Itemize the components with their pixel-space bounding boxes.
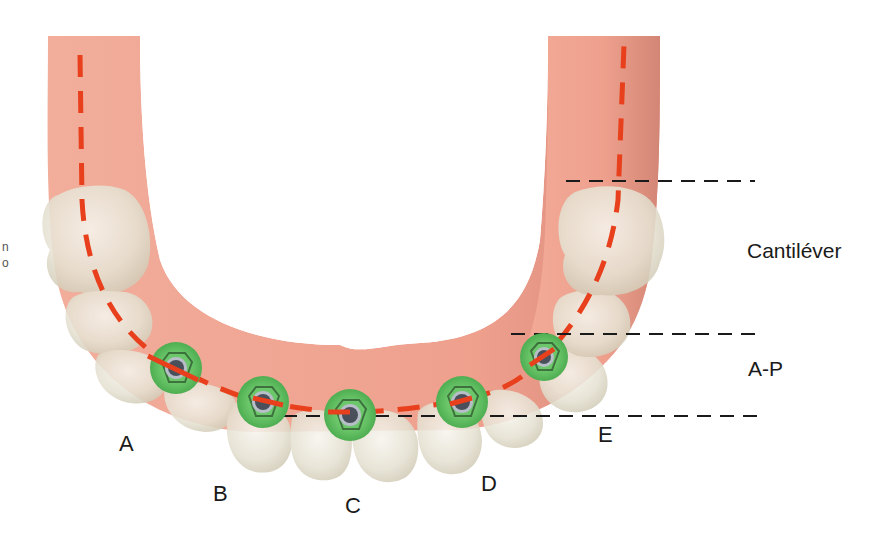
implant-label-b: B bbox=[213, 483, 228, 505]
implant-label-d: D bbox=[481, 473, 497, 495]
dental-arch-diagram: A B C D E Cantiléver A-P n o bbox=[0, 0, 896, 539]
implant-label-a: A bbox=[119, 433, 134, 455]
implant-label-c: C bbox=[345, 495, 361, 517]
implant-e bbox=[520, 333, 568, 381]
cropped-text-fragment: n bbox=[2, 240, 9, 254]
implant-d bbox=[436, 376, 488, 428]
implant-c bbox=[324, 389, 376, 441]
arch-illustration bbox=[0, 0, 896, 539]
implant-b bbox=[237, 376, 289, 428]
cropped-text-fragment: o bbox=[2, 256, 9, 270]
implant-label-e: E bbox=[598, 424, 613, 446]
ap-spread-label: A-P bbox=[748, 358, 783, 379]
cantilever-label: Cantiléver bbox=[747, 240, 842, 261]
